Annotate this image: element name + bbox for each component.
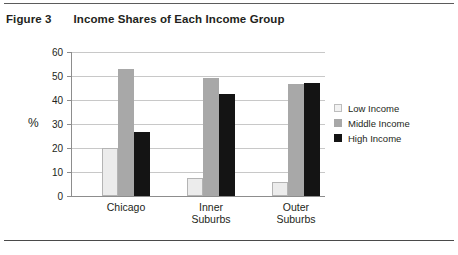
y-axis-tick — [67, 196, 72, 197]
y-axis-tick — [67, 100, 72, 101]
x-axis-category-line: Suburbs — [248, 213, 344, 225]
bar — [134, 132, 150, 196]
y-axis-tick — [67, 148, 72, 149]
x-axis-category-line: Suburbs — [163, 213, 259, 225]
legend-label: Middle Income — [348, 118, 410, 129]
x-axis-category-label: OuterSuburbs — [248, 201, 344, 225]
bar — [102, 148, 118, 196]
bar — [203, 78, 219, 196]
x-axis-category-line: Inner — [163, 201, 259, 213]
chart-legend: Low IncomeMiddle IncomeHigh Income — [334, 101, 454, 146]
bar — [272, 182, 288, 196]
legend-label: Low Income — [348, 103, 399, 114]
y-axis-tick-label: 40 — [52, 95, 63, 106]
legend-swatch-icon — [334, 134, 342, 142]
legend-swatch-icon — [334, 119, 342, 127]
figure-caption: Figure 3Income Shares of Each Income Gro… — [6, 9, 452, 25]
plot-area: 0102030405060 ChicagoInnerSuburbsOuterSu… — [72, 52, 325, 196]
bar — [304, 83, 320, 196]
figure-panel: Figure 3Income Shares of Each Income Gro… — [0, 0, 458, 255]
y-axis-tick-label: 60 — [52, 47, 63, 58]
y-axis-tick — [67, 76, 72, 77]
y-axis-tick — [67, 172, 72, 173]
bar — [187, 178, 203, 196]
y-axis-tick-label: 10 — [52, 167, 63, 178]
figure-title: Income Shares of Each Income Group — [74, 13, 285, 25]
gridline — [72, 196, 325, 197]
y-axis-tick-label: 30 — [52, 119, 63, 130]
x-axis-category-line: Outer — [248, 201, 344, 213]
legend-label: High Income — [348, 133, 401, 144]
legend-item: Low Income — [334, 101, 454, 115]
y-axis-title: % — [28, 116, 39, 130]
legend-item: Middle Income — [334, 116, 454, 130]
bottom-divider-rule — [4, 240, 454, 241]
y-axis-tick — [67, 124, 72, 125]
bar — [118, 69, 134, 196]
top-divider-rule — [4, 3, 454, 4]
bar-group — [187, 52, 235, 196]
x-axis-category-line: Chicago — [78, 201, 174, 213]
legend-item: High Income — [334, 131, 454, 145]
bar — [219, 94, 235, 196]
bar — [288, 84, 304, 196]
x-axis-category-label: InnerSuburbs — [163, 201, 259, 225]
x-axis-category-label: Chicago — [78, 201, 174, 213]
bar-group — [272, 52, 320, 196]
y-axis-tick — [67, 52, 72, 53]
y-axis-tick-label: 50 — [52, 71, 63, 82]
bar-group — [102, 52, 150, 196]
y-axis-tick-label: 0 — [57, 191, 63, 202]
y-axis-tick-label: 20 — [52, 143, 63, 154]
figure-number: Figure 3 — [6, 13, 52, 25]
legend-swatch-icon — [334, 104, 342, 112]
